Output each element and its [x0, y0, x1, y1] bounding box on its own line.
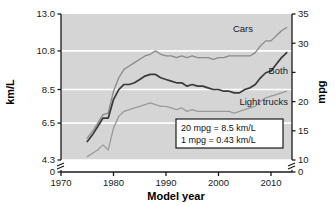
- y-axis-right-title: mpg: [315, 80, 327, 103]
- left-tick-label: 4.3: [42, 154, 55, 165]
- left-tick-label: 0: [50, 166, 55, 177]
- left-tick-label: 6.5: [42, 117, 55, 128]
- left-tick-label: 13.0: [37, 8, 56, 19]
- right-tick-label: 20: [298, 96, 309, 107]
- left-tick-label: 8.5: [42, 84, 55, 95]
- right-tick-label: 30: [298, 38, 309, 49]
- fuel-economy-chart: 04.36.58.510.813.0 01015203035 197019801…: [0, 0, 335, 206]
- y-axis-title: km/L: [4, 79, 16, 105]
- conversion-note-line-2: 1 mpg = 0.43 km/L: [181, 135, 256, 145]
- right-tick-label: 0: [298, 166, 303, 177]
- both-series-label: Both: [268, 65, 288, 76]
- right-tick-label: 15: [298, 125, 309, 136]
- light-trucks-series-label: Light trucks: [239, 96, 288, 107]
- right-tick-label: 35: [298, 8, 309, 19]
- right-tick-label: 10: [298, 154, 309, 165]
- x-tick-label: 2010: [260, 177, 281, 188]
- x-axis-title: Model year: [147, 190, 205, 202]
- cars-series-label: Cars: [233, 23, 253, 34]
- chart-canvas: 04.36.58.510.813.0 01015203035 197019801…: [0, 0, 335, 206]
- x-tick-label: 2000: [208, 177, 229, 188]
- x-tick-label: 1980: [103, 177, 124, 188]
- left-tick-label: 10.8: [37, 45, 56, 56]
- x-tick-label: 1970: [50, 177, 71, 188]
- conversion-note-line-1: 20 mpg = 8.5 km/L: [181, 123, 256, 133]
- x-tick-label: 1990: [155, 177, 176, 188]
